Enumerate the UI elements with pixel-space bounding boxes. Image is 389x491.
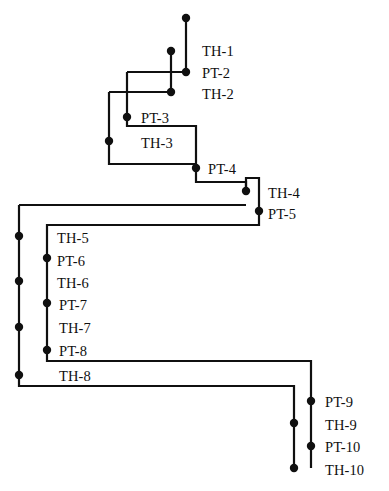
node-marker[interactable] xyxy=(242,187,250,195)
node-marker[interactable] xyxy=(167,88,175,96)
node-marker[interactable] xyxy=(167,47,175,55)
node-marker[interactable] xyxy=(307,397,315,405)
node-label-th-1: TH-1 xyxy=(202,44,234,59)
node-label-pt-10: PT-10 xyxy=(325,440,360,455)
node-label-pt-6: PT-6 xyxy=(57,254,85,269)
node-marker[interactable] xyxy=(43,346,51,354)
node-label-th-10: TH-10 xyxy=(325,463,364,478)
node-label-th-3: TH-3 xyxy=(141,136,173,151)
node-label-pt-3: PT-3 xyxy=(141,111,169,126)
node-marker[interactable] xyxy=(43,254,51,262)
node-marker[interactable] xyxy=(290,464,298,472)
node-label-th-6: TH-6 xyxy=(57,276,89,291)
node-label-pt-5: PT-5 xyxy=(268,207,296,222)
node-label-pt-2: PT-2 xyxy=(202,66,230,81)
node-label-th-5: TH-5 xyxy=(57,231,89,246)
node-marker[interactable] xyxy=(15,232,23,240)
node-marker[interactable] xyxy=(15,323,23,331)
node-marker[interactable] xyxy=(123,113,131,121)
node-marker[interactable] xyxy=(290,419,298,427)
node-label-pt-7: PT-7 xyxy=(59,298,87,313)
node-marker[interactable] xyxy=(192,164,200,172)
node-label-th-2: TH-2 xyxy=(202,87,234,102)
connector-line xyxy=(19,375,294,468)
node-marker[interactable] xyxy=(182,68,190,76)
node-marker[interactable] xyxy=(105,137,113,145)
node-label-th-4: TH-4 xyxy=(268,186,300,201)
node-label-pt-4: PT-4 xyxy=(208,162,236,177)
node-label-th-7: TH-7 xyxy=(59,321,91,336)
node-marker[interactable] xyxy=(15,277,23,285)
node-label-th-8: TH-8 xyxy=(59,369,91,384)
node-marker[interactable] xyxy=(307,442,315,450)
diagram-canvas: TH-1PT-2TH-2PT-3TH-3PT-4TH-4PT-5TH-5PT-6… xyxy=(0,0,389,491)
node-label-th-9: TH-9 xyxy=(325,418,357,433)
node-marker[interactable] xyxy=(15,371,23,379)
node-label-pt-8: PT-8 xyxy=(59,344,87,359)
node-marker[interactable] xyxy=(43,299,51,307)
node-marker[interactable] xyxy=(255,207,263,215)
node-marker[interactable] xyxy=(182,14,190,22)
node-label-pt-9: PT-9 xyxy=(325,395,353,410)
